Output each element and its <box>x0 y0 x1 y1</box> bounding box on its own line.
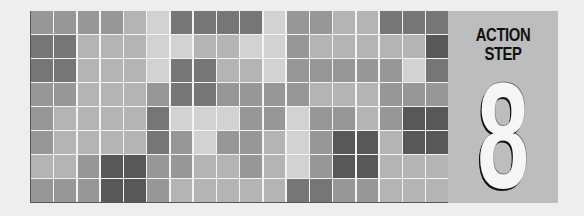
mosaic-cell <box>287 131 309 154</box>
mosaic-cell <box>171 107 193 130</box>
mosaic-cell <box>31 11 53 34</box>
mosaic-cell <box>357 83 379 106</box>
mosaic-cell <box>194 11 216 34</box>
mosaic-cell <box>124 107 146 130</box>
mosaic-cell <box>101 59 123 82</box>
mosaic-cell <box>403 107 425 130</box>
mosaic-cell <box>194 35 216 58</box>
mosaic-cell <box>403 83 425 106</box>
mosaic-cell <box>240 35 262 58</box>
mosaic-cell <box>310 107 332 130</box>
mosaic-cell <box>31 131 53 154</box>
mosaic-cell <box>124 83 146 106</box>
mosaic-cell <box>147 11 169 34</box>
mosaic-cell <box>380 179 402 202</box>
mosaic-cell <box>240 155 262 178</box>
mosaic-cell <box>54 11 76 34</box>
mosaic-cell <box>333 35 355 58</box>
mosaic-cell <box>357 131 379 154</box>
mosaic-cell <box>101 83 123 106</box>
panel-title-line1: ACTION <box>460 25 546 44</box>
mosaic-cell <box>426 131 448 154</box>
mosaic-cell <box>264 35 286 58</box>
mosaic-cell <box>31 83 53 106</box>
mosaic-cell <box>333 107 355 130</box>
mosaic-cell <box>310 155 332 178</box>
mosaic-cell <box>101 131 123 154</box>
mosaic-cell <box>217 155 239 178</box>
mosaic-cell <box>101 35 123 58</box>
mosaic-cell <box>54 179 76 202</box>
mosaic-cell <box>31 59 53 82</box>
mosaic-cell <box>380 131 402 154</box>
mosaic-cell <box>147 179 169 202</box>
mosaic-cell <box>194 155 216 178</box>
mosaic-cell <box>264 83 286 106</box>
mosaic-cell <box>426 83 448 106</box>
mosaic-cell <box>310 35 332 58</box>
mosaic-cell <box>147 107 169 130</box>
mosaic-cell <box>101 11 123 34</box>
mosaic-cell <box>240 11 262 34</box>
mosaic-cell <box>357 59 379 82</box>
mosaic-cell <box>380 155 402 178</box>
mosaic-cell <box>380 107 402 130</box>
mosaic-cell <box>380 35 402 58</box>
mosaic-cell <box>54 59 76 82</box>
mosaic-cell <box>78 107 100 130</box>
mosaic-cell <box>171 131 193 154</box>
mosaic-cell <box>310 59 332 82</box>
mosaic-cell <box>101 155 123 178</box>
mosaic-cell <box>403 155 425 178</box>
mosaic-cell <box>194 107 216 130</box>
mosaic-cell <box>54 131 76 154</box>
mosaic-cell <box>310 11 332 34</box>
mosaic-cell <box>403 179 425 202</box>
mosaic-cell <box>31 107 53 130</box>
mosaic-cell <box>124 131 146 154</box>
step-number: 8 <box>469 71 537 201</box>
mosaic-cell <box>194 59 216 82</box>
mosaic-cell <box>426 35 448 58</box>
mosaic-cell <box>264 155 286 178</box>
mosaic-cell <box>147 131 169 154</box>
mosaic-cell <box>264 179 286 202</box>
mosaic-cell <box>403 59 425 82</box>
mosaic-cell <box>171 11 193 34</box>
mosaic-cell <box>240 131 262 154</box>
mosaic-cell <box>217 107 239 130</box>
mosaic-cell <box>287 155 309 178</box>
mosaic-cell <box>426 107 448 130</box>
mosaic-cell <box>147 83 169 106</box>
mosaic-cell <box>78 83 100 106</box>
mosaic-cell <box>171 59 193 82</box>
mosaic-cell <box>333 179 355 202</box>
mosaic-cell <box>333 11 355 34</box>
mosaic-cell <box>403 35 425 58</box>
mosaic-cell <box>78 35 100 58</box>
mosaic-cell <box>78 155 100 178</box>
mosaic-cell <box>54 107 76 130</box>
mosaic-cell <box>31 155 53 178</box>
mosaic-cell <box>240 107 262 130</box>
mosaic-grid <box>30 11 448 203</box>
mosaic-cell <box>287 107 309 130</box>
mosaic-cell <box>426 11 448 34</box>
mosaic-cell <box>217 35 239 58</box>
mosaic-cell <box>31 35 53 58</box>
mosaic-cell <box>333 59 355 82</box>
mosaic-cell <box>426 179 448 202</box>
mosaic-cell <box>403 11 425 34</box>
mosaic-cell <box>287 59 309 82</box>
mosaic-cell <box>54 35 76 58</box>
mosaic-cell <box>310 131 332 154</box>
mosaic-cell <box>380 59 402 82</box>
mosaic-cell <box>357 155 379 178</box>
mosaic-cell <box>78 179 100 202</box>
mosaic-cell <box>54 155 76 178</box>
mosaic-cell <box>101 179 123 202</box>
mosaic-cell <box>78 11 100 34</box>
mosaic-cell <box>147 155 169 178</box>
mosaic-cell <box>264 59 286 82</box>
mosaic-cell <box>357 179 379 202</box>
